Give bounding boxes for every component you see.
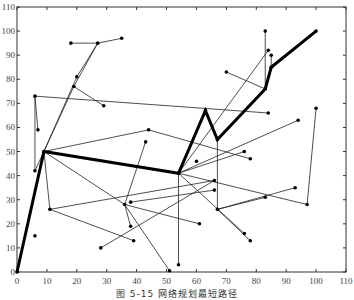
node-marker [42,150,46,154]
node-marker [305,203,309,207]
node-marker [120,37,124,41]
figure-caption: 图 5-15 网络规划最短路径 [0,287,354,300]
node-marker [263,87,267,91]
node-marker [216,138,220,142]
node-marker [96,41,100,45]
node-marker [123,203,127,207]
edge [125,142,146,205]
node-marker [225,70,229,74]
y-tick-label: 90 [6,50,16,60]
edge [35,96,38,130]
node-marker [147,128,151,132]
x-tick-label: 10 [42,276,52,286]
network-chart: 0102030405060708090100110010203040506070… [0,0,354,300]
edge [98,38,122,43]
edge [44,152,50,210]
node-marker [72,85,76,89]
y-tick-label: 40 [6,171,16,181]
node-marker [144,140,148,144]
node-marker [36,128,40,132]
network-edges [35,31,316,271]
node-marker [33,234,37,238]
y-tick-label: 70 [6,98,16,108]
node-marker [293,186,297,190]
node-marker [33,94,37,98]
y-tick-label: 100 [2,26,16,36]
node-marker [204,109,208,113]
y-tick-label: 60 [6,122,16,132]
y-tick-label: 30 [6,195,16,205]
node-marker [69,41,73,45]
edge [44,130,149,152]
node-marker [296,118,300,122]
node-marker [132,239,136,243]
x-tick-label: 0 [15,276,20,286]
node-marker [216,208,220,212]
node-marker [129,224,133,228]
edge [217,209,250,240]
edge [44,77,77,152]
node-marker [213,179,217,183]
node-marker [263,29,267,33]
edge [217,197,265,209]
edge [179,173,308,204]
x-tick-label: 70 [222,276,232,286]
network-nodes [15,29,318,274]
node-marker [75,75,79,79]
node-marker [177,263,181,267]
edge [125,205,131,227]
node-marker [263,196,267,200]
y-tick-label: 80 [6,74,16,84]
edge [307,108,316,204]
x-tick-label: 100 [309,276,323,286]
node-marker [177,171,181,175]
node-marker [213,188,217,192]
x-tick-label: 60 [192,276,202,286]
y-tick-label: 0 [11,267,16,277]
node-marker [314,29,318,33]
x-tick-label: 40 [132,276,142,286]
x-tick-label: 110 [339,276,353,286]
node-marker [48,208,52,212]
node-marker [195,159,199,163]
y-tick-label: 110 [2,2,16,12]
node-marker [248,239,252,243]
edge [74,87,104,106]
node-marker [129,200,133,204]
y-tick-label: 20 [6,219,16,229]
edge [131,190,215,202]
edge [77,43,98,77]
node-marker [102,104,106,108]
node-marker [269,53,273,57]
node-marker [15,270,19,274]
node-marker [314,106,318,110]
node-marker [198,222,202,226]
y-tick-label: 50 [6,147,16,157]
node-marker [99,246,103,250]
node-marker [243,150,247,154]
edge [226,72,265,89]
node-marker [243,232,247,236]
x-tick-label: 90 [282,276,292,286]
node-marker [266,111,270,115]
node-marker [248,157,252,161]
node-marker [269,65,273,69]
edge [179,152,245,174]
node-marker [266,49,270,53]
x-tick-label: 80 [252,276,262,286]
y-tick-label: 10 [6,243,16,253]
x-tick-label: 20 [72,276,82,286]
x-tick-label: 50 [162,276,172,286]
node-marker [33,169,37,173]
x-tick-label: 30 [102,276,112,286]
node-marker [168,269,172,273]
